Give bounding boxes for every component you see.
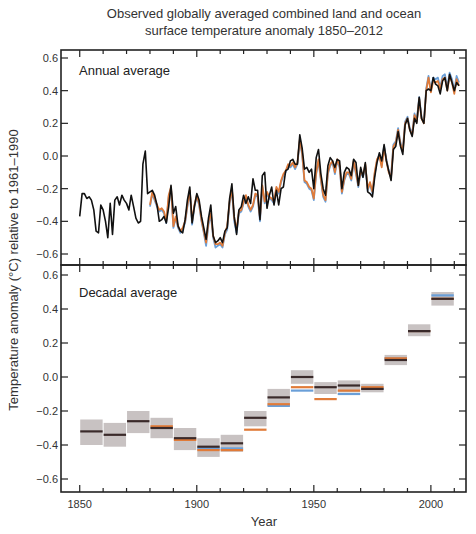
y-tick-label: −0.6	[36, 248, 58, 260]
y-tick-label: 0.2	[43, 337, 58, 349]
x-tick-label: 1950	[302, 498, 326, 510]
y-tick-label: 0.6	[43, 52, 58, 64]
x-tick-label: 1900	[185, 498, 209, 510]
y-axis-label: Temperature anomaly (°C) relative to 196…	[6, 129, 21, 410]
chart-title-line-1: Observed globally averaged combined land…	[107, 6, 421, 21]
annual-series-line-blue	[150, 73, 459, 248]
chart-title-line-2: surface temperature anomaly 1850–2012	[145, 23, 383, 38]
annual-series-line-orange	[150, 76, 459, 246]
y-tick-label: 0.2	[43, 117, 58, 129]
y-tick-label: 0.0	[43, 371, 58, 383]
y-tick-label: 0.6	[43, 269, 58, 281]
annual-average-panel: Annual average 0.60.40.20.0−0.2−0.4−0.6	[36, 50, 466, 265]
y-tick-label: −0.4	[36, 439, 58, 451]
y-tick-label: −0.2	[36, 183, 58, 195]
temperature-anomaly-figure: Observed globally averaged combined land…	[0, 0, 476, 534]
y-tick-label: 0.4	[43, 85, 58, 97]
y-tick-label: 0.4	[43, 303, 58, 315]
plot-frame	[61, 50, 466, 265]
x-tick-label: 1850	[67, 498, 91, 510]
x-tick-label: 2000	[419, 498, 443, 510]
annual-average-label: Annual average	[79, 63, 170, 78]
decadal-average-label: Decadal average	[79, 285, 177, 300]
y-tick-label: −0.4	[36, 215, 58, 227]
x-axis-label: Year	[251, 514, 278, 529]
y-tick-label: −0.6	[36, 473, 58, 485]
annual-series-line-black	[80, 74, 459, 242]
decadal-average-panel: Decadal average 0.60.40.20.0−0.2−0.4−0.6	[36, 265, 466, 492]
y-tick-label: 0.0	[43, 150, 58, 162]
y-tick-label: −0.2	[36, 405, 58, 417]
